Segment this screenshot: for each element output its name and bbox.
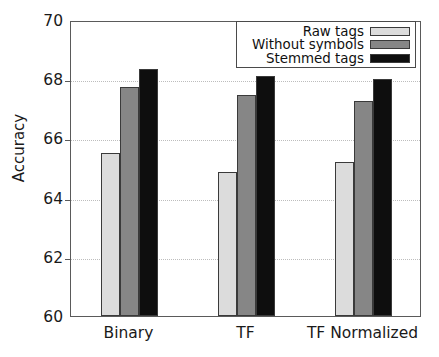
- y-axis-title-label: Accuracy: [10, 114, 28, 182]
- bar-without-symbols-tf-normalized: [354, 101, 373, 316]
- legend-item-stemmed-tags: Stemmed tags: [241, 52, 410, 65]
- legend-item-raw-tags: Raw tags: [241, 25, 410, 38]
- x-tick-label-tf: TF: [236, 324, 254, 342]
- legend: Raw tags Without symbols Stemmed tags: [236, 21, 416, 68]
- y-tick-mark: [65, 140, 71, 141]
- bar-raw-tags-tf-normalized: [335, 162, 354, 316]
- legend-swatch-stemmed-tags: [370, 54, 410, 63]
- bar-chart: Accuracy 606264666870 BinaryTFTF Normali…: [0, 0, 439, 357]
- y-tick-label: 60: [19, 310, 63, 326]
- bar-without-symbols-binary: [120, 87, 139, 316]
- y-tick-label: 64: [19, 192, 63, 208]
- gridline: [71, 81, 420, 82]
- bar-stemmed-tags-tf: [256, 76, 275, 316]
- legend-swatch-raw-tags: [370, 27, 410, 36]
- bar-raw-tags-tf: [218, 172, 237, 316]
- bar-without-symbols-tf: [237, 95, 256, 316]
- legend-label-stemmed-tags: Stemmed tags: [266, 51, 364, 66]
- y-tick-label: 66: [19, 132, 63, 148]
- legend-item-without-symbols: Without symbols: [241, 38, 410, 51]
- bar-stemmed-tags-binary: [139, 69, 158, 316]
- bar-stemmed-tags-tf-normalized: [373, 79, 392, 316]
- bar-raw-tags-binary: [101, 153, 120, 316]
- x-tick-label-tf-normalized: TF Normalized: [307, 324, 418, 342]
- y-tick-label: 70: [19, 14, 63, 30]
- y-tick-mark: [65, 81, 71, 82]
- y-tick-label: 68: [19, 73, 63, 89]
- y-tick-label: 62: [19, 251, 63, 267]
- legend-swatch-without-symbols: [370, 40, 410, 49]
- y-tick-mark: [65, 200, 71, 201]
- y-tick-mark: [65, 259, 71, 260]
- x-tick-label-binary: Binary: [104, 324, 154, 342]
